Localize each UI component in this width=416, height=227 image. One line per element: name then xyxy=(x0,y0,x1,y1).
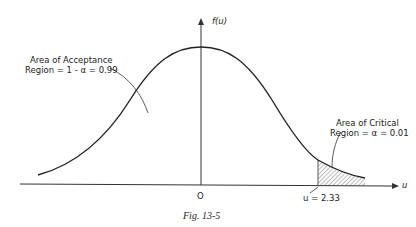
acceptance-region-label: Area of Acceptance Region = 1 - α = 0.99 xyxy=(25,55,118,75)
critical-region-label: Area of Critical Region = α = 0.01 xyxy=(330,118,409,138)
acceptance-label-line2: Region = 1 - α = 0.99 xyxy=(25,65,118,75)
critical-label-line1: Area of Critical xyxy=(330,118,409,128)
y-axis-label: f(u) xyxy=(212,16,227,26)
x-axis-arrow-icon xyxy=(392,183,399,189)
critical-label-line2: Region = α = 0.01 xyxy=(330,128,409,138)
y-axis-arrow-icon xyxy=(198,18,204,25)
origin-label: O xyxy=(197,191,204,201)
figure-caption: Fig. 13-5 xyxy=(183,210,220,221)
acceptance-label-line1: Area of Acceptance xyxy=(25,55,118,65)
critical-value-label: u = 2.33 xyxy=(303,193,340,203)
x-axis-label: u xyxy=(402,180,407,190)
normal-curve-diagram xyxy=(0,0,416,227)
